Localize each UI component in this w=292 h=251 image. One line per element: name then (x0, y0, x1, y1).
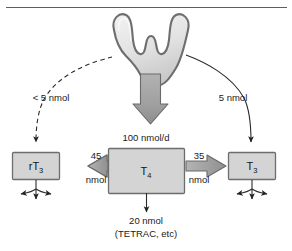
rt3-box-label: rT3 (29, 160, 44, 172)
degradation-fan-arrows-rt3 (21, 180, 51, 199)
t3-box-label-sub: 3 (253, 166, 257, 175)
t4-box-label: T4 (141, 165, 152, 177)
label-rt3-conversion-value: 45 (91, 150, 102, 161)
t3-box-label-text: T (247, 160, 254, 172)
rt3-box-label-sub: 3 (39, 166, 43, 175)
label-t3-conversion-value: 35 (194, 150, 205, 161)
label-alternate-pathway-value: 20 nmol (129, 215, 163, 226)
label-right-flux: 5 nmol (219, 92, 248, 103)
diagram-canvas (0, 0, 292, 251)
t4-box-label-sub: 4 (147, 171, 151, 180)
label-rt3-conversion-unit: nmol (86, 174, 107, 185)
label-t3-conversion-unit: nmol (189, 174, 210, 185)
t3-box-label: T3 (247, 160, 258, 172)
label-left-flux: < 5 nmol (33, 92, 70, 103)
degradation-fan-arrows-t3 (237, 180, 267, 199)
label-secretion-rate: 100 nmol/d (122, 132, 169, 143)
t4-box-label-text: T (141, 165, 148, 177)
rt3-box-label-text: rT (29, 160, 39, 172)
thyroid-hormone-diagram: < 5 nmol 5 nmol 100 nmol/d 45 nmol 35 nm… (0, 0, 292, 251)
label-alternate-pathway-detail: (TETRAC, etc) (115, 228, 177, 239)
